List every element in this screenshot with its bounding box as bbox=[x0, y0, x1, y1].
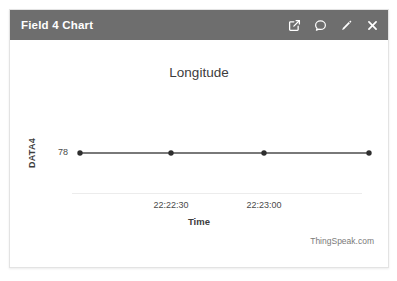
export-icon[interactable] bbox=[288, 19, 301, 32]
close-icon[interactable] bbox=[366, 19, 379, 32]
x-axis-label: Time bbox=[10, 216, 388, 227]
chart-body: Longitude DATA4 78 22:22:30 22:23:00 Tim… bbox=[10, 40, 388, 267]
data-point bbox=[366, 150, 371, 155]
card-title: Field 4 Chart bbox=[21, 19, 93, 31]
card-header: Field 4 Chart bbox=[10, 10, 388, 40]
data-point bbox=[77, 150, 82, 155]
data-point bbox=[168, 150, 173, 155]
x-axis-tick-label: 22:23:00 bbox=[234, 200, 294, 210]
thingspeak-watermark: ThingSpeak.com bbox=[310, 236, 374, 246]
edit-icon[interactable] bbox=[340, 19, 353, 32]
y-axis-tick-label: 78 bbox=[48, 147, 68, 157]
x-axis-tick-label: 22:22:30 bbox=[141, 200, 201, 210]
header-actions bbox=[288, 19, 379, 32]
y-axis-label: DATA4 bbox=[27, 123, 37, 183]
comment-icon[interactable] bbox=[314, 19, 327, 32]
data-point bbox=[261, 150, 266, 155]
field-chart-card: Field 4 Chart bbox=[9, 9, 389, 268]
